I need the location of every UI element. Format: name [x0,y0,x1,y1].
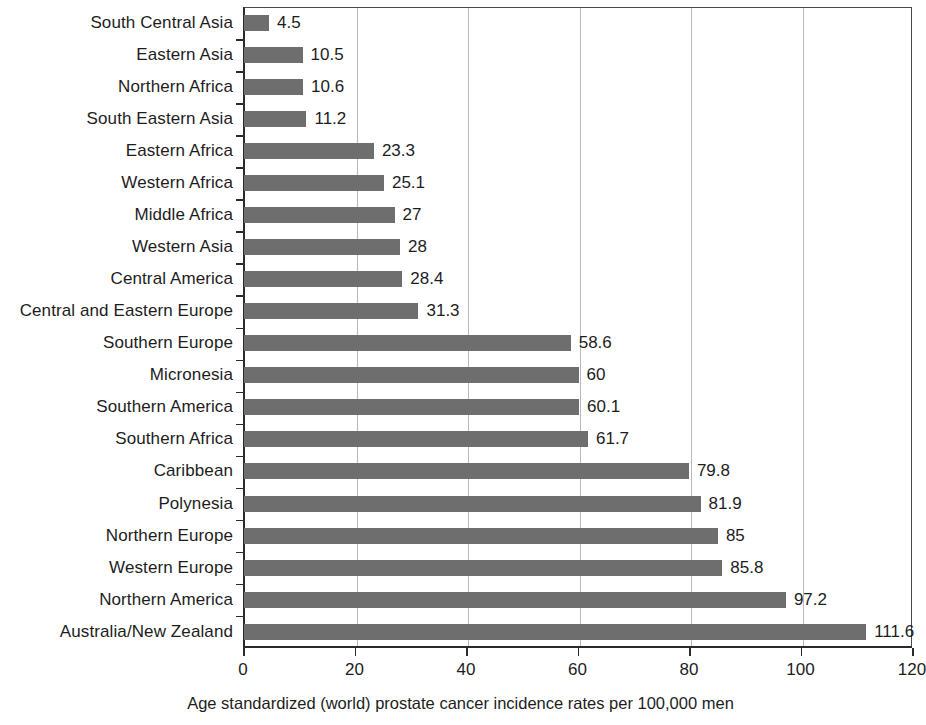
y-axis-tick [236,295,244,297]
category-label: South Eastern Asia [87,109,233,129]
bar-row: South Eastern Asia11.2 [0,103,921,135]
bar [244,15,269,31]
bar-value-label: 4.5 [277,13,301,33]
bar-value-label: 28.4 [410,269,443,289]
y-axis-tick [236,616,244,618]
bar-row: Eastern Asia10.5 [0,39,921,71]
bar-value-label: 111.6 [874,622,914,642]
bar-row: Southern America60.1 [0,392,921,424]
bar-row: Central and Eastern Europe31.3 [0,295,921,327]
category-label: Middle Africa [134,205,233,225]
category-label: Western Europe [109,558,233,578]
category-label: Micronesia [150,365,233,385]
x-axis-tick-label: 60 [568,660,587,680]
bar [244,111,306,127]
bar-row: Western Europe85.8 [0,552,921,584]
bar-row: Northern Africa10.6 [0,71,921,103]
x-axis-tick [912,648,914,656]
category-label: Eastern Asia [136,45,233,65]
bar [244,496,701,512]
y-axis-tick [236,552,244,554]
bar [244,47,303,63]
bar [244,271,402,287]
bar-value-label: 58.6 [579,333,612,353]
x-axis-label: Age standardized (world) prostate cancer… [0,694,921,713]
category-label: Caribbean [154,461,233,481]
bar-value-label: 61.7 [596,429,629,449]
y-axis-tick [236,199,244,201]
y-axis-tick [236,456,244,458]
bar-row: Western Africa25.1 [0,167,921,199]
x-axis-tick [466,648,468,656]
bar-value-label: 97.2 [794,590,827,610]
bar-row: Micronesia60 [0,360,921,392]
y-axis-tick [236,328,244,330]
bar-row: Eastern Africa23.3 [0,135,921,167]
y-axis-tick [236,392,244,394]
bar-value-label: 81.9 [709,494,742,514]
x-axis-tick [355,648,357,656]
x-axis-tick-label: 120 [898,660,926,680]
bar [244,431,588,447]
bar [244,335,571,351]
y-axis-tick [236,584,244,586]
category-label: Northern America [99,590,233,610]
category-label: Central and Eastern Europe [20,301,233,321]
x-axis-tick-label: 20 [345,660,364,680]
category-label: Australia/New Zealand [60,622,233,642]
x-axis-tick-label: 0 [238,660,247,680]
bar-row: Northern Europe85 [0,520,921,552]
bar-value-label: 10.6 [311,77,344,97]
bar [244,624,866,640]
category-label: Eastern Africa [126,141,233,161]
category-label: Southern Europe [103,333,233,353]
bar-value-label: 11.2 [314,109,346,129]
bar-value-label: 31.3 [426,301,459,321]
bar-row: Caribbean79.8 [0,456,921,488]
bar-rows: South Central Asia4.5Eastern Asia10.5Nor… [0,0,921,641]
y-axis-tick [236,488,244,490]
x-axis-tick-label: 80 [680,660,699,680]
category-label: Western Africa [121,173,233,193]
bar [244,239,400,255]
category-label: Northern Europe [106,526,233,546]
y-axis-tick [236,231,244,233]
category-label: Northern Africa [118,77,233,97]
category-label: Southern Africa [115,429,233,449]
y-axis-tick [236,39,244,41]
bar-value-label: 27 [403,205,422,225]
bar [244,79,303,95]
bar [244,528,718,544]
bar-row: South Central Asia4.5 [0,7,921,39]
x-axis-tick [801,648,803,656]
x-axis: 020406080100120 [0,648,921,688]
category-label: Southern America [96,397,233,417]
y-axis-tick [236,71,244,73]
bar [244,463,689,479]
bar-row: Polynesia81.9 [0,488,921,520]
y-axis-tick [236,167,244,169]
bar [244,143,374,159]
bar-row: Australia/New Zealand111.6 [0,616,921,648]
bar-row: Central America28.4 [0,263,921,295]
bar-value-label: 28 [408,237,427,257]
bar [244,207,395,223]
bar [244,175,384,191]
bar-row: Western Asia28 [0,231,921,263]
bar [244,592,786,608]
x-axis-tick-label: 40 [457,660,476,680]
bar-value-label: 10.5 [311,45,344,65]
bar-value-label: 25.1 [392,173,425,193]
bar-value-label: 60.1 [587,397,620,417]
bar-value-label: 79.8 [697,461,730,481]
bar-value-label: 85 [726,526,745,546]
bar-row: Southern Africa61.7 [0,424,921,456]
y-axis-tick [236,103,244,105]
category-label: Central America [111,269,233,289]
x-axis-tick [689,648,691,656]
category-label: Polynesia [158,494,233,514]
x-axis-tick [243,648,245,656]
category-label: South Central Asia [90,13,233,33]
bar-value-label: 85.8 [730,558,763,578]
